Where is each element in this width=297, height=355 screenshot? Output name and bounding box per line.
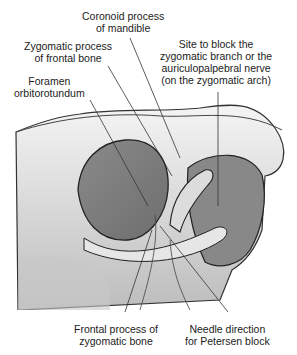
label-frontal-process-zygomatic: Frontal process of zygomatic bone: [74, 323, 158, 347]
label-line: auriculopalpebral nerve: [160, 62, 272, 74]
label-line: of frontal bone: [24, 52, 112, 64]
label-line: of mandible: [82, 22, 164, 34]
label-site-to-block: Site to block the zygomatic branch or th…: [160, 38, 272, 86]
label-line: Foramen: [14, 75, 85, 87]
label-foramen-orbitorotundum: Foramen orbitorotundum: [14, 75, 85, 99]
label-line: orbitorotundum: [14, 87, 85, 99]
label-line: Site to block the: [160, 38, 272, 50]
label-line: for Petersen block: [185, 335, 270, 347]
label-line: zygomatic bone: [74, 335, 158, 347]
label-line: Coronoid process: [82, 10, 164, 22]
label-line: Needle direction: [185, 323, 270, 335]
label-needle-direction: Needle direction for Petersen block: [185, 323, 270, 347]
label-line: (on the zygomatic arch): [160, 74, 272, 86]
label-line: Frontal process of: [74, 323, 158, 335]
label-line: zygomatic branch or the: [160, 50, 272, 62]
label-zygomatic-process-frontal: Zygomatic process of frontal bone: [24, 40, 112, 64]
label-coronoid-process: Coronoid process of mandible: [82, 10, 164, 34]
label-line: Zygomatic process: [24, 40, 112, 52]
